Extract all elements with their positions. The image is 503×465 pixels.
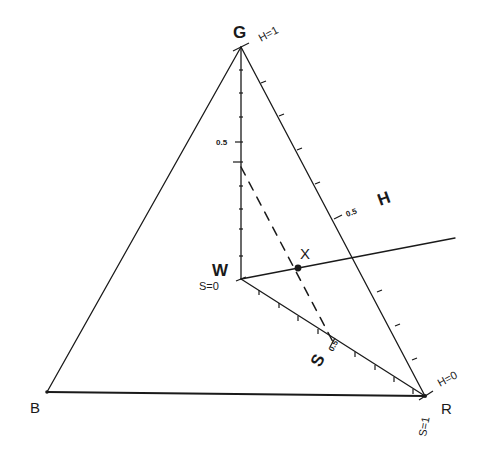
hue-line [241, 238, 455, 279]
label-r: R [441, 400, 452, 417]
label-w: W [212, 261, 229, 280]
label-v-half: 0.5 [216, 138, 228, 147]
label-s-equals-1: S=1 [416, 416, 431, 438]
label-h-half: 0.5 [345, 206, 359, 218]
label-h-equals-0: H=0 [435, 369, 459, 389]
label-b: B [30, 399, 40, 416]
edge-b-g [47, 47, 241, 392]
vertex-r-dot [423, 394, 427, 398]
label-g: G [233, 23, 246, 42]
label-s-axis: S [307, 351, 329, 370]
dashed-line [241, 167, 333, 342]
edge-b-r [47, 392, 425, 396]
hsv-triangle-diagram: G H=1 0.5 0.5 H X W S=0 S 0.5 B H=0 R S=… [0, 0, 503, 465]
point-x [295, 265, 302, 272]
axis-w-r [241, 279, 425, 396]
vertex-b-dot [45, 390, 49, 394]
label-s-equals-0: S=0 [199, 280, 219, 292]
g-r-ticks [261, 81, 417, 360]
label-h-equals-1: H=1 [256, 24, 280, 44]
label-point-x: X [300, 245, 310, 262]
label-h-axis: H [375, 188, 393, 210]
